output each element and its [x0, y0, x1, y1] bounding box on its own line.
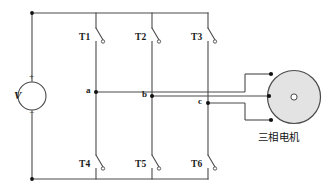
voltage-source-circle: [18, 82, 46, 110]
phase-output-wires: [96, 74, 271, 120]
motor-terminal-v: [267, 94, 271, 98]
switch-T5-blade: [152, 155, 159, 167]
switch-T2-blade: [152, 28, 159, 40]
switch-label-T2: T2: [135, 33, 146, 43]
switch-T4-pivot: [101, 167, 104, 170]
motor-label: 三相电机: [258, 132, 300, 143]
node-label-c: c: [198, 97, 202, 106]
switch-T1-blade: [96, 28, 103, 40]
switch-label-T5: T5: [135, 160, 146, 170]
motor-shaft-circle: [291, 94, 297, 100]
circuit-schematic-canvas: [0, 0, 324, 193]
circuit-diagram: V + − T1 T2 T3 T4 T5 T6 a b c 三相电机: [0, 0, 324, 193]
voltage-source-label: V: [14, 90, 21, 101]
motor-terminal-u: [269, 72, 273, 76]
switch-label-T3: T3: [191, 33, 202, 43]
switch-label-T1: T1: [79, 33, 90, 43]
node-b-dot: [150, 94, 154, 98]
switch-T3-blade: [208, 28, 215, 40]
switch-T6-blade: [208, 155, 215, 167]
top-left-corner-node: [30, 11, 34, 15]
switch-T3-pivot: [213, 40, 216, 43]
switch-label-T4: T4: [79, 160, 90, 170]
switch-T5-pivot: [157, 167, 160, 170]
three-phase-motor: [267, 71, 321, 124]
node-c-dot: [206, 101, 210, 105]
voltage-source-plus-sign: +: [29, 72, 34, 81]
node-label-a: a: [86, 86, 91, 95]
switch-T1-pivot: [101, 40, 104, 43]
bottom-left-corner-node: [30, 177, 34, 181]
switch-T6-pivot: [213, 167, 216, 170]
voltage-source-minus-sign: −: [29, 108, 34, 117]
node-label-b: b: [142, 90, 147, 99]
node-a-dot: [94, 90, 98, 94]
inverter-leg-a: [96, 13, 105, 179]
motor-terminal-w: [269, 118, 273, 122]
switch-T4-blade: [96, 155, 103, 167]
switch-T2-pivot: [157, 40, 160, 43]
voltage-source-symbol: [18, 82, 46, 110]
switch-label-T6: T6: [191, 160, 202, 170]
